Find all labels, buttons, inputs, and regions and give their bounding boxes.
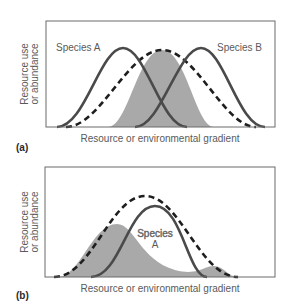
panel-b-species-a-label-line2: A — [152, 239, 159, 250]
panel-a-species-a-label: Species A — [56, 42, 101, 53]
figure: Species A Species B Resource use or abun… — [0, 0, 293, 308]
panel-a-ylabel-line2: or abundance — [29, 43, 40, 105]
panel-a: Species A Species B Resource use or abun… — [16, 21, 275, 153]
panel-a-shaded-area — [108, 50, 214, 127]
panel-a-species-b-label: Species B — [217, 42, 262, 53]
panel-b-label: (b) — [16, 290, 29, 301]
panel-b-xlabel: Resource or environmental gradient — [81, 283, 240, 294]
panel-a-xlabel: Resource or environmental gradient — [81, 133, 240, 144]
panel-b: Species A Resource use or abundance Reso… — [16, 167, 275, 301]
panel-a-label: (a) — [16, 142, 28, 153]
panel-b-species-a-label-line1: Species — [137, 228, 173, 239]
panel-b-ylabel-line2: or abundance — [29, 191, 40, 253]
panel-b-frame — [45, 167, 275, 277]
